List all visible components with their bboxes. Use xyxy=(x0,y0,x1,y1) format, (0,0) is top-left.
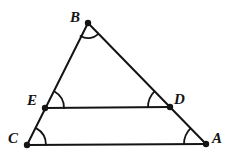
vertex-dot-C xyxy=(24,142,30,148)
angle-C-arc xyxy=(37,128,47,145)
vertex-label-a: A xyxy=(212,131,222,146)
vertex-dot-A xyxy=(203,141,209,147)
vertex-label-e: E xyxy=(27,93,37,108)
angle-A-arc xyxy=(184,128,191,144)
segment-BC xyxy=(27,23,88,145)
vertex-dot-E xyxy=(42,105,48,111)
angle-E-arc xyxy=(55,92,65,108)
vertex-dot-D xyxy=(167,104,173,110)
geometry-canvas xyxy=(0,0,237,165)
segment-CA xyxy=(27,144,206,145)
segment-BA xyxy=(88,23,206,144)
vertex-label-d: D xyxy=(174,92,185,107)
vertex-dot-B xyxy=(85,20,91,26)
geometry-figure: B E D C A xyxy=(0,0,237,165)
angle-D-arc xyxy=(148,91,155,107)
vertex-label-b: B xyxy=(70,10,80,25)
vertex-label-c: C xyxy=(8,131,18,146)
